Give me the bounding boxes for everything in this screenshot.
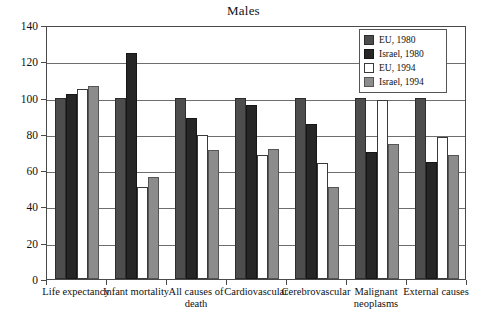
x-axis-tick-mark [226, 280, 227, 285]
chart-legend: EU, 1980Israel, 1980EU, 1994Israel, 1994 [359, 29, 447, 93]
bar [355, 98, 366, 279]
bar [137, 187, 148, 279]
y-axis-tick-mark [41, 62, 46, 63]
legend-item: EU, 1980 [364, 33, 442, 47]
legend-item: EU, 1994 [364, 61, 442, 75]
legend-swatch-icon [364, 63, 374, 73]
y-axis-tick-label: 0 [0, 275, 38, 285]
legend-swatch-icon [364, 35, 374, 45]
legend-label: Israel, 1994 [379, 77, 424, 87]
bar [148, 177, 159, 280]
bar-group [47, 27, 107, 279]
bar [415, 98, 426, 279]
bar [197, 135, 208, 279]
bar-group [107, 27, 167, 279]
x-axis-tick-mark [406, 280, 407, 285]
bar [426, 162, 437, 279]
legend-label: EU, 1994 [379, 63, 415, 73]
x-axis-category-label-line: External causes [398, 286, 474, 298]
bar [208, 150, 219, 279]
y-axis-tick-mark [41, 207, 46, 208]
bar [306, 124, 317, 279]
bar [377, 100, 388, 279]
bar [126, 53, 137, 279]
y-axis-tick-label: 40 [0, 202, 38, 212]
bar [437, 137, 448, 279]
bar [55, 98, 66, 279]
y-axis-tick-mark [41, 244, 46, 245]
y-axis-tick-mark [41, 171, 46, 172]
legend-swatch-icon [364, 49, 374, 59]
bar [66, 94, 77, 279]
bar [317, 163, 328, 279]
legend-label: Israel, 1980 [379, 49, 424, 59]
y-axis-tick-mark [41, 135, 46, 136]
x-axis-category-label: External causes [398, 286, 474, 298]
x-axis-tick-mark [346, 280, 347, 285]
legend-swatch-icon [364, 77, 374, 87]
bar-chart: Males EU, 1980Israel, 1980EU, 1994Israel… [0, 0, 487, 319]
legend-item: Israel, 1994 [364, 75, 442, 89]
bar [328, 187, 339, 279]
y-axis-tick-label: 100 [0, 94, 38, 104]
bar-group [167, 27, 227, 279]
bar [257, 155, 268, 279]
bar [366, 152, 377, 279]
bar [448, 155, 459, 279]
bar [295, 98, 306, 279]
bar [268, 149, 279, 279]
legend-label: EU, 1980 [379, 35, 415, 45]
bar [186, 118, 197, 279]
x-axis-tick-mark [286, 280, 287, 285]
bar-group [287, 27, 347, 279]
y-axis-tick-label: 120 [0, 57, 38, 67]
legend-item: Israel, 1980 [364, 47, 442, 61]
bar-group [227, 27, 287, 279]
y-axis-tick-label: 140 [0, 21, 38, 31]
x-axis-tick-mark [466, 280, 467, 285]
bar [115, 98, 126, 279]
x-axis-tick-mark [46, 280, 47, 285]
chart-title: Males [0, 3, 487, 19]
x-axis-category-label-line: neoplasms [338, 298, 414, 310]
y-axis-tick-label: 60 [0, 166, 38, 176]
y-axis-tick-label: 80 [0, 130, 38, 140]
x-axis-tick-mark [166, 280, 167, 285]
x-axis-tick-mark [106, 280, 107, 285]
bar [77, 89, 88, 279]
y-axis-tick-mark [41, 26, 46, 27]
y-axis-tick-label: 20 [0, 239, 38, 249]
bar [388, 144, 399, 279]
bar [88, 86, 99, 279]
bar [246, 105, 257, 279]
bar [175, 98, 186, 279]
x-axis-category-label-line: death [158, 298, 234, 310]
bar [235, 98, 246, 279]
y-axis-tick-mark [41, 99, 46, 100]
